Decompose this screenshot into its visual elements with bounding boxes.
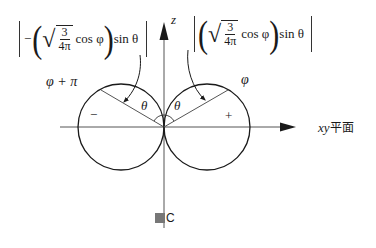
xy-plane-label-latin: xy bbox=[318, 120, 330, 135]
sqrt-expression: √ 3 4π bbox=[42, 25, 72, 52]
xy-axis-arrowhead-icon bbox=[280, 123, 296, 132]
right-lobe-sign: + bbox=[225, 109, 232, 122]
sin-theta: sin θ bbox=[279, 26, 304, 42]
open-paren: ( bbox=[32, 20, 42, 58]
cos-phi: cos φ bbox=[241, 26, 269, 42]
abs-bar-left bbox=[19, 21, 20, 57]
sin-theta: sin θ bbox=[114, 31, 139, 47]
fraction: 3 4π bbox=[222, 21, 238, 47]
abs-bar-left bbox=[194, 16, 195, 52]
radical-sign: √ bbox=[208, 22, 221, 46]
close-paren: ) bbox=[104, 20, 114, 58]
cos-phi: cos φ bbox=[76, 31, 104, 47]
close-paren: ) bbox=[269, 15, 279, 53]
right-theta-label: θ bbox=[174, 99, 180, 112]
fraction: 3 4π bbox=[57, 26, 73, 52]
right-formula: ( √ 3 4π cos φ ) sin θ bbox=[194, 16, 312, 52]
left-angle-label: φ + π bbox=[46, 75, 77, 89]
abs-bar-right bbox=[311, 16, 312, 52]
caption-glyph-icon bbox=[155, 213, 165, 223]
left-formula-minus: − bbox=[24, 31, 31, 47]
abs-bar-right bbox=[146, 21, 147, 57]
caption-letter: C bbox=[166, 211, 175, 225]
xy-axis bbox=[60, 123, 296, 132]
left-formula: − ( √ 3 4π cos φ ) sin θ bbox=[19, 21, 147, 57]
figure-caption: C bbox=[155, 212, 175, 224]
left-lobe-sign: − bbox=[90, 108, 97, 121]
z-axis-label: z bbox=[171, 13, 176, 26]
xy-plane-label: xy平面 bbox=[318, 121, 354, 134]
left-theta-label: θ bbox=[141, 99, 147, 112]
sqrt-expression: √ 3 4π bbox=[208, 20, 238, 47]
xy-plane-label-cjk: 平面 bbox=[330, 121, 354, 135]
left-radial-line bbox=[101, 90, 164, 127]
left-pointer-arrow bbox=[124, 55, 140, 102]
right-pointer-arrow bbox=[188, 50, 205, 100]
z-axis-arrowhead-icon bbox=[160, 22, 169, 40]
right-angle-label: φ bbox=[241, 73, 249, 87]
radical-sign: √ bbox=[42, 27, 55, 51]
open-paren: ( bbox=[198, 15, 208, 53]
